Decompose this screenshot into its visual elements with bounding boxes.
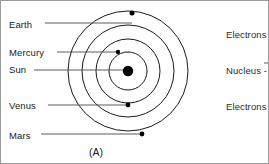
particle-earth	[130, 11, 135, 16]
nucleus-sun-dot	[123, 66, 133, 76]
label-mars: Mars	[9, 131, 31, 141]
label-mercury: Mercury	[9, 48, 44, 58]
label-earth: Earth	[9, 20, 32, 30]
particles-group	[116, 11, 145, 137]
particle-mars	[140, 132, 145, 137]
label-sun: Sun	[9, 65, 26, 75]
figure-container: Earth Mercury Sun Venus Mars Electrons N…	[0, 0, 269, 164]
label-electrons-top: Electrons	[226, 30, 267, 40]
figure-caption: (A)	[89, 147, 103, 158]
label-electrons-bottom: Electrons	[226, 102, 267, 112]
particle-mercury	[116, 50, 120, 54]
label-nucleus: Nucleus -	[226, 66, 267, 76]
atom-solar-system-diagram	[1, 1, 269, 164]
label-venus: Venus	[9, 101, 36, 111]
particle-venus	[126, 103, 131, 108]
